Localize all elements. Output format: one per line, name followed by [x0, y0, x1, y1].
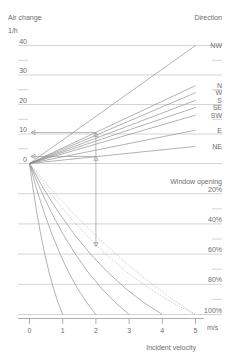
right-axis-labels: 20%40%60%80%100% [204, 186, 222, 314]
x-tick-label-5: 5 [194, 327, 198, 334]
y-tick-label-30: 30 [19, 67, 27, 74]
direction-label-N: N [217, 82, 222, 89]
y-tick-label-10: 10 [19, 126, 27, 133]
construction-lines [31, 130, 98, 246]
x-axis-labels: 012345 [28, 327, 198, 334]
window-opening-label-40%: 40% [208, 216, 222, 223]
x-tick-label-4: 4 [160, 327, 164, 334]
direction-label-W: W [215, 89, 222, 96]
window-opening-legend-title: Window opening [170, 178, 222, 186]
x-tick-label-2: 2 [94, 327, 98, 334]
direction-label-SW: SW [211, 112, 223, 119]
y-axis-title: Air change [8, 14, 42, 22]
direction-ray-W [30, 93, 196, 164]
direction-label-E: E [217, 127, 222, 134]
x-axis-title: Incident velocity [146, 344, 196, 352]
x-axis [18, 319, 204, 325]
direction-label-NE: NE [212, 143, 222, 150]
direction-legend-title: Direction [194, 14, 222, 21]
y-tick-label-40: 40 [19, 38, 27, 45]
direction-label-S: S [217, 97, 222, 104]
window-opening-label-100%: 100% [204, 307, 222, 314]
x-tick-label-0: 0 [28, 327, 32, 334]
window-opening-label-20%: 20% [208, 186, 222, 193]
opening-ray-20% [30, 164, 63, 315]
air-change-chart: 403020100 20%40%60%80%100% NWNWSSESWENE … [0, 0, 230, 362]
x-tick-label-3: 3 [127, 327, 131, 334]
y-axis-unit: 1/h [8, 27, 18, 34]
x-tick-label-1: 1 [61, 327, 65, 334]
window-opening-rays [30, 164, 196, 315]
y-tick-label-20: 20 [19, 97, 27, 104]
direction-label-SE: SE [213, 104, 223, 111]
window-opening-label-80%: 80% [208, 276, 222, 283]
chart-canvas: 403020100 20%40%60%80%100% NWNWSSESWENE … [0, 0, 230, 362]
y-axis-labels: 403020100 [19, 38, 27, 163]
window-opening-label-60%: 60% [208, 246, 222, 253]
y-tick-label-0: 0 [23, 156, 27, 163]
direction-label-NW: NW [210, 42, 222, 49]
direction-ray-N [30, 86, 196, 164]
x-axis-unit: m/s [207, 324, 219, 331]
opening-ray-40% [30, 164, 96, 315]
direction-ray-S [30, 100, 196, 163]
